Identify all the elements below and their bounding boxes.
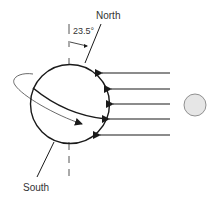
south-label: South — [23, 182, 49, 193]
equator-line — [33, 88, 106, 119]
earth-tilt-diagram: North 23.5° South — [0, 0, 218, 199]
sun — [184, 94, 206, 116]
earth — [31, 65, 110, 144]
north-label: North — [96, 10, 120, 21]
sun-rays — [100, 73, 170, 135]
tilt-angle-label: 23.5° — [73, 26, 95, 36]
axis-south — [37, 142, 54, 177]
tilt-angle-arrow — [70, 42, 88, 48]
